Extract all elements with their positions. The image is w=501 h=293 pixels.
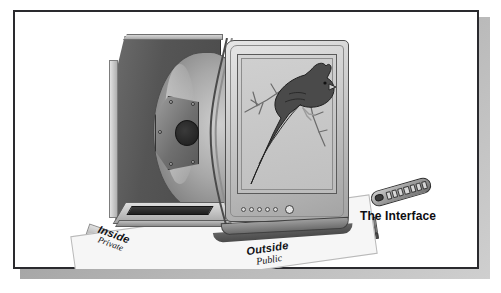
tv-remote-control[interactable]	[369, 176, 433, 208]
mounting-bolt	[191, 102, 195, 106]
tv-cabinet-left-edge	[109, 60, 118, 218]
chassis-circuit-board	[126, 206, 213, 215]
mounting-bolt	[169, 100, 173, 104]
illustration-figure: Inside Private Outside Public The Interf…	[0, 0, 501, 293]
crt-tube-neck	[175, 120, 199, 146]
tv-control-button[interactable]	[273, 207, 278, 212]
illustration-stage: Inside Private Outside Public The Interf…	[13, 10, 479, 269]
interface-label: The Interface	[360, 209, 436, 223]
mounting-bolt	[158, 130, 162, 134]
mounting-bolt	[191, 160, 195, 164]
tv-control-button[interactable]	[257, 207, 262, 212]
crt-television	[109, 34, 349, 230]
cardinal-bird-illustration	[237, 54, 337, 194]
power-button[interactable]	[285, 205, 294, 214]
tv-control-panel	[241, 204, 327, 214]
tv-control-button[interactable]	[265, 207, 270, 212]
tv-control-button[interactable]	[241, 207, 246, 212]
mounting-bolt	[169, 162, 173, 166]
tv-control-button[interactable]	[249, 207, 254, 212]
